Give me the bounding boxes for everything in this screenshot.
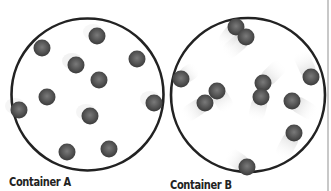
gas-particle [39,89,56,106]
gas-particle [59,144,76,161]
gas-particle [89,28,106,45]
gas-particle [197,95,214,112]
gas-particle [253,89,270,106]
gas-particle [238,29,255,46]
trails-container-a [5,24,160,120]
gas-particle [239,159,256,176]
gas-particle [91,72,108,89]
gas-particle [284,93,301,110]
gas-particle [101,141,118,158]
gas-particle [286,125,303,142]
gas-particle [303,69,320,86]
gas-particle [129,51,146,68]
gas-particle [146,95,163,112]
gas-particle [11,102,28,119]
right-edge-divider [327,0,329,191]
gas-particle [173,71,190,88]
container-a-outline [12,19,164,171]
gas-particle [68,57,85,74]
container-a-label: Container A [9,174,71,189]
gas-particle [209,83,226,100]
gas-particle-diagram [0,0,331,191]
container-b-label: Container B [170,177,232,191]
gas-particle [82,108,99,125]
gas-particle [34,40,51,57]
particles-container-a [11,28,163,161]
